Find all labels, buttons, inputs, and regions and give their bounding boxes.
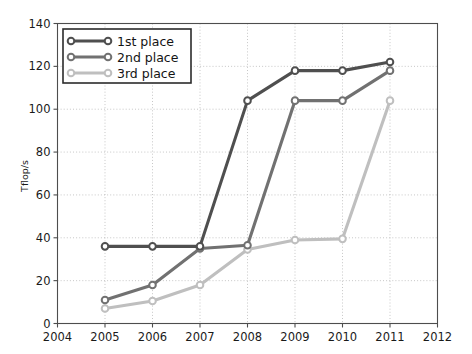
legend-label: 3rd place bbox=[117, 66, 176, 81]
data-point bbox=[387, 59, 394, 66]
chart-figure: 0204060801001201402004200520062007200820… bbox=[0, 0, 472, 354]
data-point bbox=[149, 298, 156, 305]
line-chart: 0204060801001201402004200520062007200820… bbox=[0, 0, 472, 354]
legend-marker bbox=[68, 38, 75, 45]
data-point bbox=[244, 242, 251, 249]
data-point bbox=[292, 97, 299, 104]
legend-marker bbox=[68, 54, 75, 61]
legend-marker bbox=[68, 70, 75, 77]
series-line bbox=[105, 101, 390, 309]
y-tick-label: 80 bbox=[36, 145, 51, 159]
legend-marker bbox=[105, 70, 112, 77]
data-point bbox=[339, 67, 346, 74]
x-tick-label: 2006 bbox=[138, 330, 167, 344]
x-tick-label: 2012 bbox=[423, 330, 452, 344]
data-point bbox=[292, 67, 299, 74]
x-tick-label: 2010 bbox=[328, 330, 357, 344]
data-point bbox=[197, 243, 204, 250]
data-point bbox=[149, 282, 156, 289]
x-tick-label: 2011 bbox=[375, 330, 404, 344]
x-tick-label: 2009 bbox=[280, 330, 309, 344]
data-point bbox=[387, 67, 394, 74]
x-tick-label: 2007 bbox=[185, 330, 214, 344]
y-tick-label: 60 bbox=[36, 188, 51, 202]
y-tick-label: 100 bbox=[29, 102, 51, 116]
y-axis-title: Tflop/s bbox=[19, 160, 30, 193]
data-point bbox=[387, 97, 394, 104]
y-tick-label: 120 bbox=[29, 59, 51, 73]
data-point bbox=[292, 237, 299, 244]
y-tick-label: 140 bbox=[29, 17, 51, 31]
data-point bbox=[149, 243, 156, 250]
chart-legend: 1st place2nd place3rd place bbox=[63, 29, 191, 83]
x-tick-label: 2008 bbox=[233, 330, 262, 344]
y-tick-label: 40 bbox=[36, 231, 51, 245]
legend-marker bbox=[105, 54, 112, 61]
y-axis-title-group: Tflop/s bbox=[19, 160, 30, 193]
data-point bbox=[244, 97, 251, 104]
y-tick-label: 20 bbox=[36, 274, 51, 288]
x-tick-label: 2004 bbox=[43, 330, 72, 344]
data-point bbox=[197, 282, 204, 289]
y-tick-label: 0 bbox=[43, 317, 50, 331]
data-point bbox=[102, 305, 109, 312]
legend-marker bbox=[105, 38, 112, 45]
data-point bbox=[339, 236, 346, 243]
x-tick-label: 2005 bbox=[90, 330, 119, 344]
data-point bbox=[102, 243, 109, 250]
data-point bbox=[102, 297, 109, 304]
data-point bbox=[339, 97, 346, 104]
legend-label: 1st place bbox=[117, 34, 174, 49]
legend-label: 2nd place bbox=[117, 50, 179, 65]
